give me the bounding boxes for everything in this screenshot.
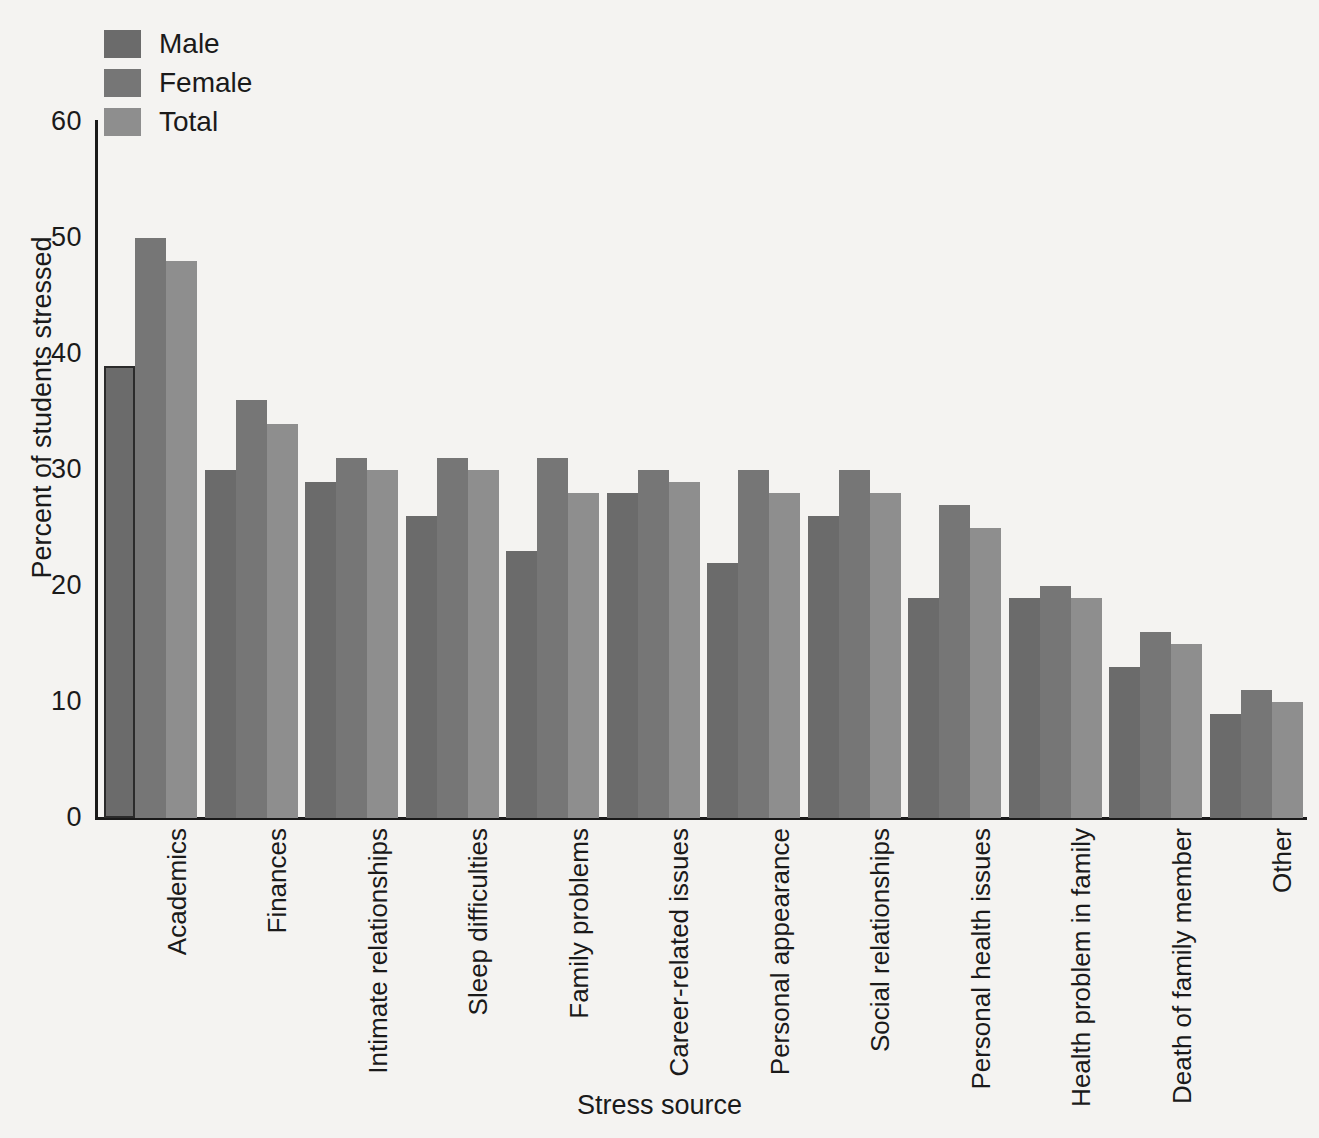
bar-total [166,261,197,818]
x-category-label: Sleep difficulties [465,828,491,1128]
bar-female [638,470,669,818]
bar-group [104,122,197,818]
x-category-label: Health problem in family [1068,828,1094,1128]
bar-male [908,598,939,818]
y-tick-label: 10 [22,688,82,715]
y-tick-label: 20 [22,572,82,599]
bar-total [970,528,1001,818]
y-tick-label: 0 [22,804,82,831]
legend-label-male: Male [159,30,220,58]
bar-female [236,400,267,818]
bar-group [1210,122,1303,818]
bar-total [367,470,398,818]
x-category-label: Career-related issues [666,828,692,1128]
bar-total [1171,644,1202,818]
bar-female [1241,690,1272,818]
bar-group [506,122,599,818]
bar-group [808,122,901,818]
y-tick-label: 40 [22,340,82,367]
x-category-label: Intimate relationships [365,828,391,1128]
legend-label-female: Female [159,69,252,97]
y-tick-label: 30 [22,456,82,483]
bar-male [305,482,336,818]
bar-total [568,493,599,818]
x-category-label: Finances [264,828,290,1128]
bar-female [1140,632,1171,818]
bar-total [468,470,499,818]
bar-total [267,424,298,818]
bar-male [707,563,738,818]
bar-male [1109,667,1140,818]
bar-female [738,470,769,818]
x-category-label: Other [1269,828,1295,1128]
x-axis-title: Stress source [0,1090,1319,1121]
bar-group [908,122,1001,818]
bar-total [870,493,901,818]
y-tick-label: 60 [22,108,82,135]
bar-male [1210,714,1241,818]
bar-group [607,122,700,818]
bar-group [707,122,800,818]
bar-female [537,458,568,818]
x-category-label: Social relationships [867,828,893,1128]
bar-female [939,505,970,818]
bar-male [506,551,537,818]
bar-female [135,238,166,818]
bar-male [808,516,839,818]
bar-total [1272,702,1303,818]
legend-swatch-male [104,30,141,58]
plot-area [96,122,1306,818]
bar-male [1009,598,1040,818]
bar-female [839,470,870,818]
bar-total [669,482,700,818]
legend-item-male: Male [104,24,252,63]
y-tick-label: 50 [22,224,82,251]
bar-male [104,366,135,818]
x-category-label: Family problems [566,828,592,1128]
bar-group [406,122,499,818]
bar-female [437,458,468,818]
bar-male [205,470,236,818]
bar-male [406,516,437,818]
bar-group [1009,122,1102,818]
x-category-label: Personal health issues [968,828,994,1128]
x-category-label: Death of family member [1169,828,1195,1128]
bar-group [1109,122,1202,818]
x-category-label: Academics [164,828,190,1128]
legend-item-female: Female [104,63,252,102]
bar-group [205,122,298,818]
bar-chart: Male Female Total 6050403020100 Percent … [0,0,1319,1138]
bar-total [769,493,800,818]
y-axis-title: Percent of students stressed [27,98,58,718]
bar-male [607,493,638,818]
legend-swatch-female [104,69,141,97]
bar-group [305,122,398,818]
bar-female [336,458,367,818]
bar-female [1040,586,1071,818]
x-category-label: Personal appearance [767,828,793,1128]
bar-total [1071,598,1102,818]
